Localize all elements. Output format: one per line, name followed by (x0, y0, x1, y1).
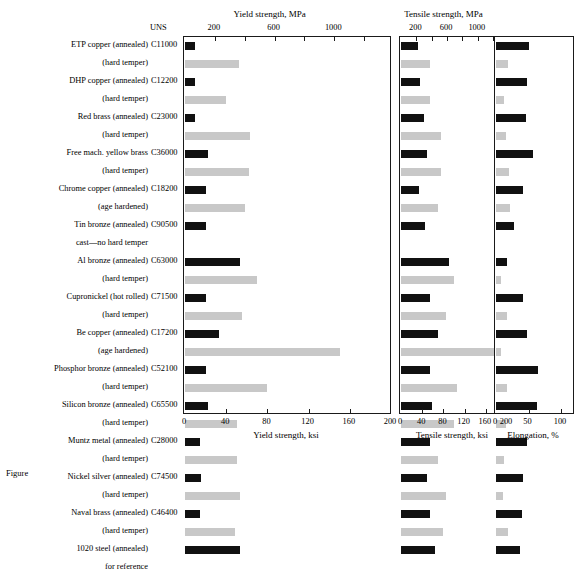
bar (496, 186, 523, 194)
bar (185, 132, 250, 140)
uns-number: C74500 (150, 468, 183, 486)
uns-number: C28000 (150, 432, 183, 450)
alloy-label: ETP copper (annealed) (0, 36, 150, 54)
bar (185, 222, 206, 230)
uns-number: C11000 (150, 36, 183, 54)
bar (401, 456, 438, 464)
alloy-label: Red brass (annealed) (0, 108, 150, 126)
uns-number (150, 306, 183, 324)
bar (185, 384, 267, 392)
bar (496, 456, 504, 464)
bar (185, 528, 235, 536)
bar (185, 330, 219, 338)
alloy-label: DHP copper (annealed) (0, 72, 150, 90)
bar (185, 276, 257, 284)
bar (401, 114, 424, 122)
figure-caption: Figure (6, 468, 28, 478)
alloy-label: cast—no hard temper (0, 234, 150, 252)
bar (401, 78, 420, 86)
bar (185, 150, 208, 158)
bar (496, 510, 522, 518)
axis-tick (226, 409, 227, 413)
bar (496, 330, 527, 338)
axis-tick (561, 409, 562, 413)
bar (496, 492, 503, 500)
bar (185, 294, 206, 302)
alloy-label: (hard temper) (0, 162, 150, 180)
axis-tick (215, 37, 216, 41)
axis-tick (416, 37, 417, 41)
bar (496, 96, 504, 104)
alloy-label-column: ETP copper (annealed)(hard temper)DHP co… (0, 36, 150, 573)
alloy-label: Be copper (annealed) (0, 324, 150, 342)
alloy-label: (hard temper) (0, 90, 150, 108)
uns-number (150, 90, 183, 108)
bar (401, 96, 430, 104)
bar (496, 276, 501, 284)
bar (185, 168, 249, 176)
bar (401, 312, 446, 320)
uns-number (150, 540, 183, 558)
x-tick-label-mpa: 200 (409, 23, 422, 33)
axis-tick (486, 409, 487, 413)
x-tick-label: 120 (457, 417, 470, 427)
uns-number: C17200 (150, 324, 183, 342)
uns-number (150, 162, 183, 180)
axis-tick (529, 409, 530, 413)
bar (401, 42, 418, 50)
panel-bottom-title: Tensile strength, ksi (416, 430, 488, 441)
axis-tick (364, 37, 365, 41)
axis-tick (465, 409, 466, 413)
x-tick-label: 0 (182, 417, 186, 427)
alloy-label: (hard temper) (0, 270, 150, 288)
uns-number: C63000 (150, 252, 183, 270)
panel-bottom-title: Yield strength, ksi (253, 430, 319, 441)
x-tick-label-mpa: 600 (267, 23, 280, 33)
bar (185, 456, 237, 464)
uns-number (150, 54, 183, 72)
bar (496, 168, 509, 176)
bar (401, 132, 441, 140)
panel-top-title: Yield strength, MPa (233, 9, 305, 20)
bar (401, 402, 432, 410)
alloy-label: Muntz metal (annealed) (0, 432, 150, 450)
uns-number (150, 378, 183, 396)
uns-number (150, 234, 183, 252)
x-tick-label: 200 (500, 417, 513, 427)
bar (496, 528, 508, 536)
bar (185, 42, 195, 50)
bar (496, 474, 523, 482)
uns-number (150, 342, 183, 360)
uns-number (150, 126, 183, 144)
x-tick-label: 40 (221, 417, 229, 427)
bar (185, 78, 195, 86)
axis-tick (443, 409, 444, 413)
bar (185, 258, 240, 266)
axis-tick (275, 37, 276, 41)
axis-tick (478, 37, 479, 41)
bar (185, 114, 195, 122)
bar (401, 168, 441, 176)
alloy-label: Phosphor bronze (annealed) (0, 360, 150, 378)
bar (185, 204, 245, 212)
plot-area (494, 36, 574, 414)
x-tick-label-mpa: 1000 (468, 23, 485, 33)
bar (496, 402, 537, 410)
uns-number (150, 486, 183, 504)
axis-tick (350, 409, 351, 413)
axis-tick (267, 409, 268, 413)
uns-column-header: UNS (150, 22, 167, 34)
uns-number: C12200 (150, 72, 183, 90)
bar (401, 222, 425, 230)
alloy-label: Free mach. yellow brass (0, 144, 150, 162)
bar (185, 510, 200, 518)
bar (496, 546, 520, 554)
alloy-label: (hard temper) (0, 450, 150, 468)
bar (185, 60, 239, 68)
panel-elongation (494, 36, 574, 414)
alloy-label: Chrome copper (annealed) (0, 180, 150, 198)
x-tick-label: 100 (554, 417, 567, 427)
bar (401, 258, 449, 266)
x-tick-label-mpa: 600 (440, 23, 453, 33)
bar (185, 96, 226, 104)
